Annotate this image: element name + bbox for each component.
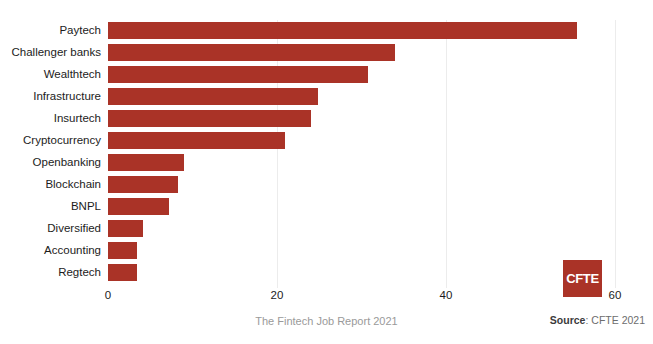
category-label: Blockchain [0, 176, 101, 198]
value-axis-tick: 60 [609, 289, 622, 301]
value-axis-tick: 40 [440, 289, 453, 301]
bar [108, 44, 395, 61]
footer-source: Source: CFTE 2021 [550, 314, 645, 326]
plot-area [108, 20, 615, 288]
footer-source-label: Source [550, 314, 586, 326]
category-label: Paytech [0, 22, 101, 44]
bar [108, 22, 577, 39]
value-axis-tick: 0 [105, 289, 111, 301]
bar [108, 154, 184, 171]
bar-chart: PaytechChallenger banksWealthtechInfrast… [0, 0, 653, 344]
bar-rows [108, 22, 615, 286]
bar-row [108, 110, 615, 132]
bar-row [108, 264, 615, 286]
category-label: Challenger banks [0, 44, 101, 66]
value-axis-tick: 20 [271, 289, 284, 301]
bar-row [108, 220, 615, 242]
value-axis: 0204060 [0, 289, 653, 307]
category-label: Diversified [0, 220, 101, 242]
bar [108, 88, 318, 105]
bar [108, 132, 285, 149]
bar-row [108, 88, 615, 110]
category-label: Accounting [0, 242, 101, 264]
category-label: Insurtech [0, 110, 101, 132]
cfte-logo: CFTE [563, 260, 602, 297]
gridline-60 [615, 20, 616, 288]
footer-source-value: CFTE 2021 [591, 314, 645, 326]
bar-row [108, 66, 615, 88]
cfte-logo-text: CFTE [566, 271, 599, 286]
bar [108, 198, 169, 215]
category-label: Regtech [0, 264, 101, 286]
bar-row [108, 22, 615, 44]
bar [108, 242, 137, 259]
category-label: Wealthtech [0, 66, 101, 88]
bar [108, 176, 178, 193]
bar-row [108, 176, 615, 198]
bar-row [108, 242, 615, 264]
category-label: Openbanking [0, 154, 101, 176]
bar-row [108, 154, 615, 176]
category-label: BNPL [0, 198, 101, 220]
category-axis-labels: PaytechChallenger banksWealthtechInfrast… [0, 22, 101, 286]
bar-row [108, 132, 615, 154]
category-label: Infrastructure [0, 88, 101, 110]
bar [108, 264, 137, 281]
bar [108, 110, 311, 127]
bar [108, 66, 368, 83]
category-label: Cryptocurrency [0, 132, 101, 154]
bar-row [108, 198, 615, 220]
bar [108, 220, 143, 237]
bar-row [108, 44, 615, 66]
